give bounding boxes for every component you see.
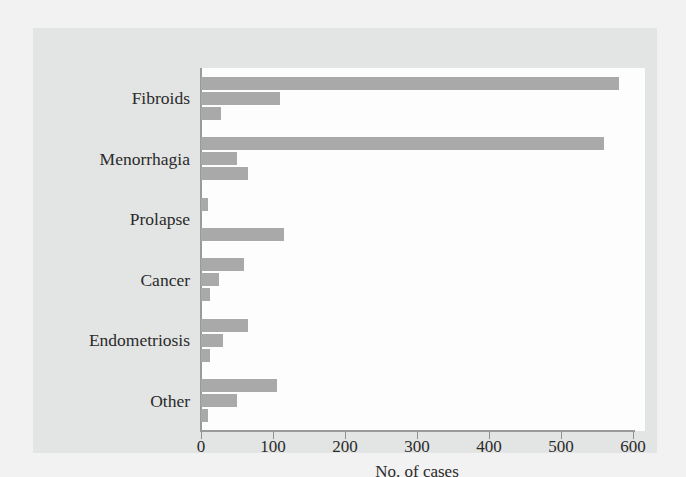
tick-label: 600 bbox=[620, 437, 646, 457]
category-label: Menorrhagia bbox=[51, 148, 201, 169]
category-label: Endometriosis bbox=[51, 330, 201, 351]
tick-label: 500 bbox=[548, 437, 574, 457]
category-label: Prolapse bbox=[51, 209, 201, 230]
tick-label: 100 bbox=[260, 437, 286, 457]
bar bbox=[201, 167, 248, 180]
bar bbox=[201, 349, 210, 362]
bar bbox=[201, 379, 277, 392]
bar bbox=[201, 394, 237, 407]
value-axis-title: No. of cases bbox=[375, 462, 459, 477]
tick-label: 300 bbox=[404, 437, 430, 457]
bar bbox=[201, 409, 208, 422]
category-label: Cancer bbox=[51, 269, 201, 290]
bar bbox=[201, 152, 237, 165]
category-label: Other bbox=[51, 390, 201, 411]
category-label: Fibroids bbox=[51, 88, 201, 109]
bar bbox=[201, 92, 280, 105]
bar bbox=[201, 107, 221, 120]
bar-group bbox=[201, 137, 633, 180]
bar-group bbox=[201, 319, 633, 362]
tick-label: 200 bbox=[332, 437, 358, 457]
bar-group bbox=[201, 258, 633, 301]
figure-frame: 0100200300400500600 FibroidsMenorrhagiaP… bbox=[33, 28, 657, 453]
bar-group bbox=[201, 77, 633, 120]
bar bbox=[201, 228, 284, 241]
bar bbox=[201, 77, 619, 90]
bar bbox=[201, 273, 219, 286]
bar-group bbox=[201, 198, 633, 241]
bar bbox=[201, 198, 208, 211]
tick-label: 400 bbox=[476, 437, 502, 457]
bar-group bbox=[201, 379, 633, 422]
bar bbox=[201, 334, 223, 347]
bar bbox=[201, 258, 244, 271]
category-axis-labels: FibroidsMenorrhagiaProlapseCancerEndomet… bbox=[51, 28, 201, 453]
bar bbox=[201, 319, 248, 332]
bar bbox=[201, 288, 210, 301]
bar bbox=[201, 137, 604, 150]
